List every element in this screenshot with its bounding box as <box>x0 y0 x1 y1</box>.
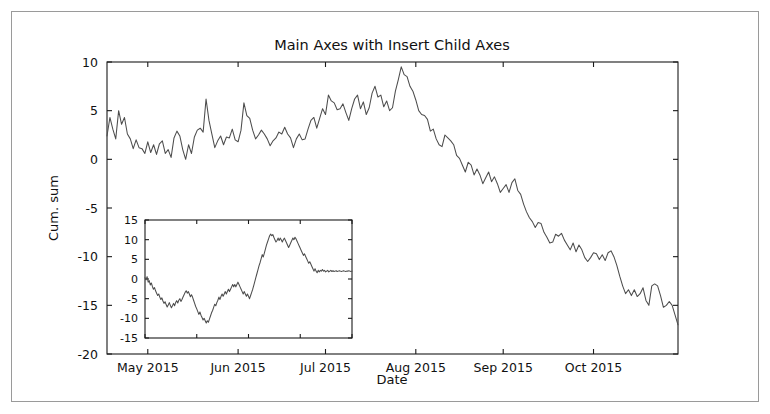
tick-label: 0 <box>90 152 98 167</box>
main-axes-x-tick-labels: May 2015Jun 2015Jul 2015Aug 2015Sep 2015… <box>117 360 622 375</box>
tick-label: 5 <box>131 253 138 266</box>
tick-label: Jun 2015 <box>209 360 265 375</box>
tick-label: 15 <box>124 214 138 227</box>
inset-axes-y-tick-labels: 151050-5-10-15 <box>120 214 138 345</box>
y-axis-label: Cum. sum <box>46 175 61 241</box>
tick-label: -20 <box>78 347 98 362</box>
tick-label: Oct 2015 <box>565 360 622 375</box>
tick-label: 5 <box>90 103 98 118</box>
tick-label: -10 <box>120 312 138 325</box>
tick-label: May 2015 <box>117 360 179 375</box>
main-axes-y-tick-labels: 1050-5-10-15-20 <box>78 55 98 362</box>
tick-label: 0 <box>131 273 138 286</box>
inset-axes-background <box>145 220 352 338</box>
tick-label: Sep 2015 <box>474 360 533 375</box>
matplotlib-figure: 1050-5-10-15-20 May 2015Jun 2015Jul 2015… <box>0 0 770 414</box>
chart-canvas: 1050-5-10-15-20 May 2015Jun 2015Jul 2015… <box>0 0 770 414</box>
chart-title: Main Axes with Insert Child Axes <box>274 37 510 53</box>
tick-label: -5 <box>127 293 138 306</box>
tick-label: -5 <box>86 201 98 216</box>
tick-label: Jul 2015 <box>299 360 351 375</box>
tick-label: -10 <box>78 249 98 264</box>
tick-label: -15 <box>120 332 138 345</box>
x-axis-label: Date <box>376 372 407 387</box>
tick-label: 10 <box>124 234 138 247</box>
tick-label: -15 <box>78 298 98 313</box>
tick-label: 10 <box>82 55 98 70</box>
